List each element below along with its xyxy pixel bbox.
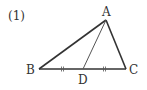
point-label-d: D <box>78 73 88 87</box>
problem-number: (1) <box>8 9 25 23</box>
segment-ad <box>83 20 106 69</box>
triangle-diagram: (1) A B C D <box>0 0 147 90</box>
vertex-label-a: A <box>101 5 111 19</box>
side-ac <box>106 20 126 69</box>
vertex-label-b: B <box>26 63 35 77</box>
side-ab <box>39 20 106 69</box>
vertex-label-c: C <box>129 63 138 77</box>
